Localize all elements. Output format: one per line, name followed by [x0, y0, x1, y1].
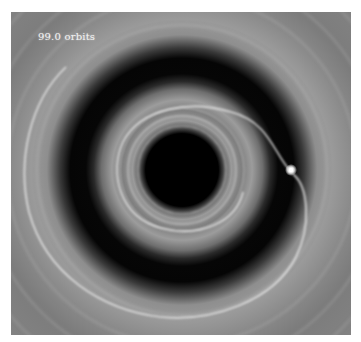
disk-simulation-image: 99.0 orbits: [11, 12, 351, 335]
orbit-count-label: 99.0 orbits: [38, 31, 95, 42]
disk-background: [11, 12, 351, 335]
disk-render: [11, 12, 351, 335]
planet-core: [289, 168, 293, 172]
